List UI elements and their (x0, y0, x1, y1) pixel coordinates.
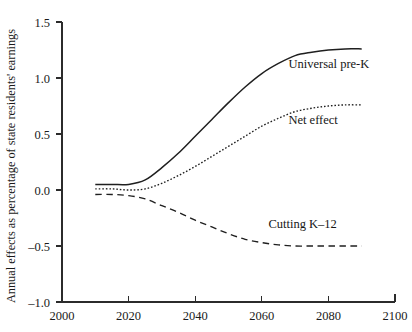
y-axis-ticks: 1.51.00.50.0–0.5–1.0 (27, 16, 62, 310)
y-tick-label: 0.5 (34, 128, 50, 142)
x-tick-label: 2040 (183, 309, 208, 323)
series-label-net-effect: Net effect (288, 113, 338, 127)
y-axis-title: Annual effects as percentage of state re… (4, 29, 18, 303)
x-tick-label: 2020 (116, 309, 141, 323)
y-tick-label: 1.5 (34, 16, 50, 30)
x-axis-ticks: 200020202040206020802100 (50, 296, 408, 323)
series-annotations: Universal pre-KNet effectCutting K–12 (268, 57, 369, 231)
y-tick-label: 0.0 (34, 184, 50, 198)
x-tick-label: 2060 (249, 309, 274, 323)
x-tick-label: 2000 (50, 309, 75, 323)
chart-container: Annual effects as percentage of state re… (0, 0, 412, 332)
y-axis-title-label: Annual effects as percentage of state re… (4, 29, 18, 303)
y-tick-label: –1.0 (27, 296, 50, 310)
y-tick-label: 1.0 (34, 72, 50, 86)
series-label-cutting-k-12: Cutting K–12 (268, 217, 336, 231)
x-tick-label: 2080 (316, 309, 341, 323)
y-tick-label: –0.5 (27, 240, 50, 254)
line-chart: Annual effects as percentage of state re… (0, 0, 412, 332)
x-tick-label: 2100 (383, 309, 408, 323)
series-label-universal-pre-k: Universal pre-K (288, 57, 369, 71)
